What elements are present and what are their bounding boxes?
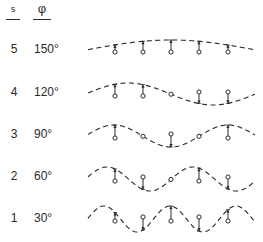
spin-marker-icon: [169, 177, 173, 181]
spin-marker-icon: [141, 85, 145, 98]
spin-marker-icon: [113, 45, 117, 54]
spin-marker-icon: [169, 206, 173, 223]
spin-marker-icon: [141, 175, 145, 190]
spin-marker-icon: [197, 90, 201, 104]
spin-marker-icon: [169, 132, 173, 147]
spin-marker-icon: [197, 215, 201, 231]
spin-marker-icon: [141, 41, 145, 54]
spin-marker-icon: [113, 125, 117, 140]
spin-marker-icon: [226, 125, 230, 140]
spin-marker-icon: [141, 134, 145, 138]
spin-marker-icon: [169, 40, 173, 54]
spin-marker-icon: [197, 41, 201, 54]
spin-marker-icon: [113, 169, 117, 183]
spin-marker-icon: [226, 45, 230, 54]
spin-marker-icon: [113, 84, 117, 98]
spin-marker-icon: [197, 168, 201, 183]
spin-marker-icon: [197, 134, 201, 138]
spin-marker-icon: [226, 175, 230, 189]
spin-marker-icon: [169, 92, 173, 96]
spin-wave-diagram: [0, 0, 263, 242]
spin-marker-icon: [226, 90, 230, 103]
spin-marker-icon: [141, 215, 145, 230]
